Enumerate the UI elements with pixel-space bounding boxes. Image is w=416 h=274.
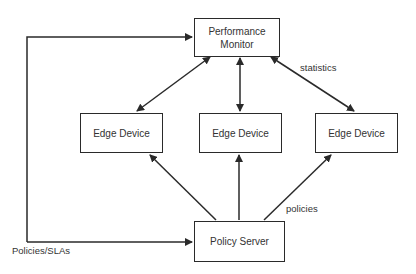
arrow-server-edge1 — [150, 155, 216, 220]
policy-server-node: Policy Server — [194, 221, 285, 262]
performance-monitor-node: Performance Monitor — [194, 18, 280, 57]
monitor-label-line2: Monitor — [220, 38, 253, 51]
edge-device-node-3: Edge Device — [315, 113, 398, 153]
edge-device-node-1: Edge Device — [80, 113, 163, 153]
edge-device-label: Edge Device — [93, 127, 150, 140]
arrow-monitor-edge1 — [137, 57, 210, 111]
policies-slas-edge-label: Policies/SLAs — [12, 245, 70, 256]
edge-device-node-2: Edge Device — [199, 113, 282, 153]
policy-server-label: Policy Server — [210, 235, 269, 248]
monitor-label-line1: Performance — [208, 25, 265, 38]
edge-device-label: Edge Device — [212, 127, 269, 140]
statistics-edge-label: statistics — [300, 62, 336, 73]
policies-edge-label: policies — [286, 203, 318, 214]
edge-device-label: Edge Device — [328, 127, 385, 140]
